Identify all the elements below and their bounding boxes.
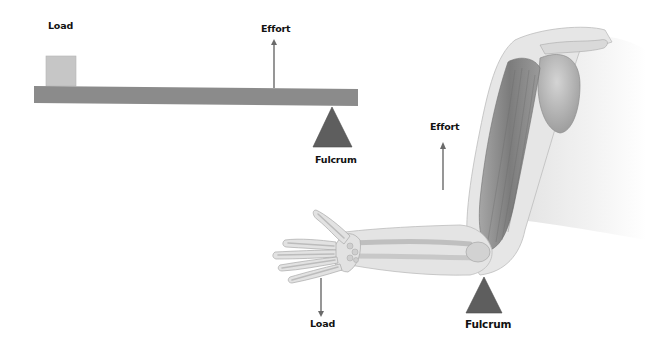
lever-comparison-diagram: Load Effort Fulcrum Effort Load Fulcrum [0, 0, 646, 350]
arm-effort-arrow [440, 142, 446, 190]
arm-load-arrow [318, 278, 324, 317]
lever-beam [34, 86, 358, 106]
ulna-bone [352, 256, 474, 258]
diagram-graphics [0, 0, 646, 350]
arm-load-label: Load [310, 318, 335, 329]
lever-load-label: Load [48, 20, 73, 31]
lever-fulcrum-label: Fulcrum [315, 154, 357, 165]
lever-effort-label: Effort [261, 23, 290, 34]
arm-effort-label: Effort [430, 121, 459, 132]
lever-effort-arrow [271, 39, 277, 88]
elbow-joint [466, 242, 490, 262]
load-box [46, 56, 76, 86]
lever-fulcrum-triangle [313, 107, 352, 147]
radius-bone [350, 241, 470, 244]
arm-fulcrum-label: Fulcrum [465, 318, 511, 330]
arm-fulcrum-triangle [466, 277, 502, 313]
